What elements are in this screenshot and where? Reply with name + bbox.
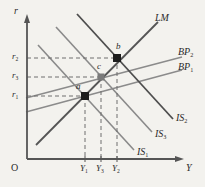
- y-tick-r3-text: r: [12, 70, 16, 80]
- curve-label-bp1-sub: 1: [190, 66, 193, 73]
- y-tick-r3-sub: 3: [16, 75, 19, 81]
- curve-label-is1: IS1: [137, 147, 148, 157]
- y-tick-label-r2: r2: [12, 52, 18, 61]
- y-tick-label-r3: r3: [12, 71, 18, 80]
- x-tick-label-y1: Y1: [80, 164, 88, 173]
- y-tick-r1-sub: 1: [16, 94, 19, 100]
- y-tick-r1-text: r: [12, 89, 16, 99]
- y-tick-label-r1: r1: [12, 90, 18, 99]
- diagram-canvas: [0, 0, 205, 187]
- point-label-a: a: [76, 82, 81, 91]
- curve-label-is1-sub: 1: [145, 151, 148, 158]
- is-1-curve: [39, 145, 134, 149]
- curve-label-is2: IS2: [176, 113, 187, 123]
- x-tick-y2-sub: 2: [117, 168, 120, 174]
- y-axis-arrow: [24, 14, 30, 23]
- x-tick-y1-sub: 1: [85, 168, 88, 174]
- y-tick-r2-text: r: [12, 51, 16, 61]
- curve-label-bp2: BP2: [178, 47, 193, 57]
- point-marker-b: [113, 54, 121, 62]
- curve-is-1: [33, 145, 139, 152]
- y-axis-label: r: [14, 6, 18, 16]
- curve-label-is2-sub: 2: [184, 117, 187, 124]
- point-label-c: c: [97, 62, 101, 71]
- x-tick-label-y2: Y2: [112, 164, 120, 173]
- curve-is1-line: [36, 150, 139, 158]
- is1-rendered: [38, 147, 136, 151]
- x-tick-label-y3: Y3: [96, 164, 104, 173]
- is-curve-1: [37, 146, 135, 152]
- curve-label-bp2-text: BP: [178, 46, 190, 57]
- x-tick-y3-sub: 3: [101, 168, 104, 174]
- is-lm-bp-diagram: r Y O LM BP2 BP1 IS1 IS3 IS2 r2 r3 r1 Y1…: [0, 0, 205, 187]
- point-label-b: b: [116, 42, 121, 51]
- point-marker-a: [81, 92, 89, 100]
- curve-is1-visible: [39, 148, 133, 151]
- curve-is1: [35, 149, 141, 156]
- point-marker-c: [98, 74, 105, 81]
- curve-is1-draw: [39, 149, 137, 156]
- x-axis-label: Y: [186, 163, 192, 173]
- is1: [38, 143, 137, 151]
- curve-label-bp1-text: BP: [178, 61, 190, 72]
- curve-label-bp2-sub: 2: [190, 51, 193, 58]
- curve-is1-main: [38, 147, 135, 155]
- curve-label-is3: IS3: [155, 129, 166, 139]
- curve-label-lm: LM: [155, 13, 169, 23]
- x-axis-arrow: [175, 156, 184, 162]
- curve-is1-final: [40, 148, 138, 156]
- curve-is1-stroke: [38, 148, 136, 157]
- curve-is1-seg: [41, 147, 139, 155]
- curve-label-is3-sub: 3: [163, 133, 166, 140]
- origin-label: O: [11, 163, 18, 173]
- y-tick-r2-sub: 2: [16, 56, 19, 62]
- curve-is1-path: [37, 141, 141, 149]
- curve-label-bp1: BP1: [178, 62, 193, 72]
